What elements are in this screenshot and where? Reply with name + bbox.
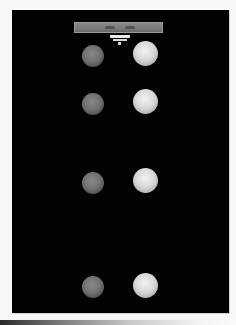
black-photo-frame [12, 10, 229, 313]
label-strip [74, 22, 163, 33]
tag-bar-secondary [113, 39, 127, 41]
sphere-right-row-3 [133, 168, 158, 193]
sphere-left-row-3 [82, 172, 104, 194]
sphere-left-row-1 [82, 45, 104, 67]
sphere-left-row-2 [82, 93, 104, 115]
tag-dot [118, 42, 121, 45]
tag-bar [110, 35, 130, 38]
label-mark [125, 26, 135, 29]
label-mark [105, 26, 115, 29]
sphere-right-row-4 [133, 273, 158, 298]
sphere-right-row-1 [133, 41, 158, 66]
sphere-left-row-4 [82, 276, 104, 298]
sphere-right-row-2 [133, 89, 158, 114]
bottom-gradient-bar [0, 320, 236, 325]
